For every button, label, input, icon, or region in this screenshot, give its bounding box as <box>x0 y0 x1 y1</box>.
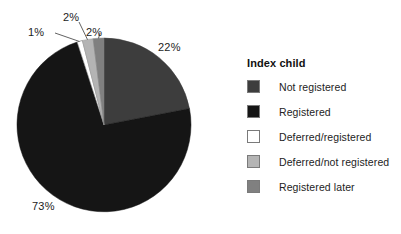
pie-value-label-not-registered: 22% <box>158 41 181 53</box>
pie-value-label-registered: 73% <box>32 200 55 212</box>
pie-chart-figure: 22% 73% 1% 2% 2% Index child Not registe… <box>0 0 401 234</box>
legend-swatch-deferred-registered <box>247 130 260 143</box>
leader-line-deferred-registered <box>55 33 80 42</box>
legend-item-deferred-not-registered[interactable]: Deferred/not registered <box>247 155 397 168</box>
legend-swatch-registered-later <box>247 180 260 193</box>
legend-swatch-not-registered <box>247 80 260 93</box>
legend-label-not-registered: Not registered <box>279 81 346 93</box>
legend-item-not-registered[interactable]: Not registered <box>247 80 397 93</box>
legend-label-deferred-registered: Deferred/registered <box>279 131 371 143</box>
legend-swatch-deferred-not-registered <box>247 155 260 168</box>
legend-label-registered-later: Registered later <box>279 181 355 193</box>
legend: Index child Not registered Registered De… <box>247 57 397 205</box>
pie-value-label-deferred-not-registered: 2% <box>63 11 79 23</box>
legend-label-deferred-not-registered: Deferred/not registered <box>279 156 389 168</box>
legend-label-registered: Registered <box>279 106 331 118</box>
legend-item-registered[interactable]: Registered <box>247 105 397 118</box>
legend-title: Index child <box>247 57 397 69</box>
legend-swatch-registered <box>247 105 260 118</box>
pie-value-label-deferred-registered: 1% <box>28 26 44 38</box>
legend-item-deferred-registered[interactable]: Deferred/registered <box>247 130 397 143</box>
pie-value-label-registered-later: 2% <box>86 26 102 38</box>
pie-chart-plot-area: 22% 73% 1% 2% 2% <box>0 0 240 234</box>
legend-item-registered-later[interactable]: Registered later <box>247 180 397 193</box>
